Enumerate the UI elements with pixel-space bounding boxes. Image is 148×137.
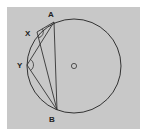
- circle-diagram: A X Y B: [0, 0, 148, 137]
- label-y: Y: [17, 61, 23, 70]
- label-a: A: [48, 10, 54, 19]
- label-x: X: [25, 29, 31, 38]
- label-b: B: [49, 115, 55, 124]
